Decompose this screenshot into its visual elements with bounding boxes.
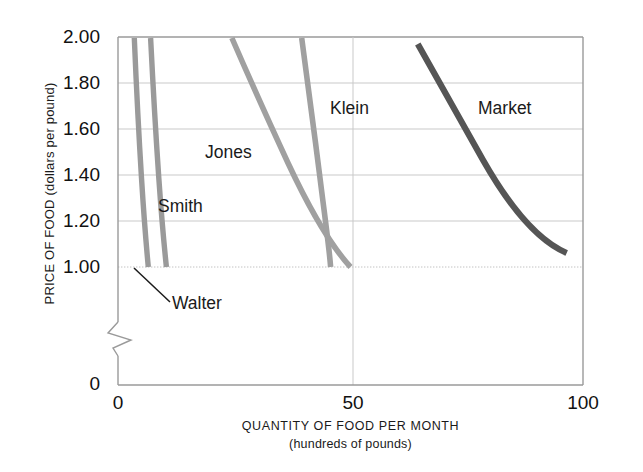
y-axis-title: PRICE OF FOOD (dollars per pound)	[42, 29, 57, 359]
series-label-smith: Smith	[158, 196, 203, 217]
xtick-label-50: 50	[318, 392, 388, 414]
series-label-jones: Jones	[205, 142, 252, 163]
series-label-klein: Klein	[330, 98, 369, 119]
x-axis-title: QUANTITY OF FOOD PER MONTH	[118, 419, 583, 433]
series-label-market: Market	[478, 98, 531, 119]
xtick-label-0: 0	[83, 392, 153, 414]
x-axis-subtitle: (hundreds of pounds)	[118, 437, 583, 451]
series-label-walter: Walter	[172, 293, 222, 314]
xtick-label-100: 100	[548, 392, 618, 414]
chart-figure: 2.00 1.80 1.60 1.40 1.20 1.00 0 0 50 100…	[0, 0, 643, 472]
